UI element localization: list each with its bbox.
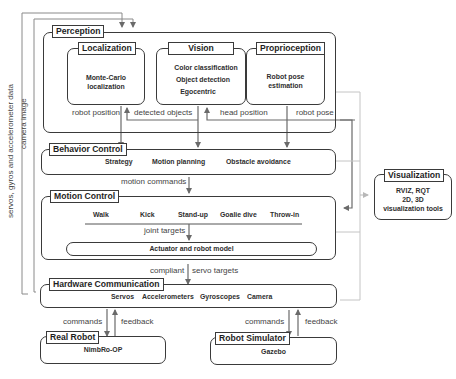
real-robot-title: Real Robot xyxy=(46,331,99,344)
visualization-line-3: visualization tools xyxy=(374,204,452,214)
edge-motion-commands: motion commands xyxy=(121,177,186,187)
edge-robot-position: robot position xyxy=(72,108,120,118)
edge-head-position: head position xyxy=(220,108,268,118)
visualization-title: Visualization xyxy=(384,169,444,182)
edge-compliant: compliant xyxy=(150,266,184,276)
edge-robot-pose: robot pose xyxy=(296,108,334,118)
behavior-control-title: Behavior Control xyxy=(49,143,127,156)
perception-title: Perception xyxy=(52,25,104,38)
hw-gyroscopes: Gyroscopes xyxy=(200,292,240,302)
hardware-communication-title: Hardware Communication xyxy=(49,278,164,291)
behavior-motion-planning: Motion planning xyxy=(152,157,205,167)
motion-goalie-dive: Goalie dive xyxy=(220,210,257,220)
hw-accelerometers: Accelerometers xyxy=(142,292,194,302)
edge-sensor-data: servos, gyros and accelerometer data xyxy=(6,84,16,218)
edge-camera-image: camera image xyxy=(19,98,29,149)
actuator-model-label: Actuator and robot model xyxy=(66,244,317,254)
edge-feedback-real: feedback xyxy=(121,317,153,327)
hw-camera: Camera xyxy=(247,292,272,302)
robot-simulator-name: Gazebo xyxy=(210,347,337,357)
vision-line-2: Object detection xyxy=(156,75,250,85)
real-robot-name: NimbRo-OP xyxy=(40,345,166,355)
vision-line-1: Color classification xyxy=(156,63,256,73)
edge-detected-objects: detected objects xyxy=(134,108,192,118)
edge-joint-targets: joint targets xyxy=(144,226,185,236)
localization-line-2: localization xyxy=(67,82,145,92)
vision-line-3: Egocentric xyxy=(156,87,240,97)
hw-servos: Servos xyxy=(111,292,134,302)
edge-commands-real: commands xyxy=(63,317,102,327)
proprioception-line-2: estimation xyxy=(246,81,325,91)
behavior-obstacle-avoidance: Obstacle avoidance xyxy=(226,157,291,167)
localization-title: Localization xyxy=(78,42,136,55)
behavior-strategy: Strategy xyxy=(105,157,133,167)
vision-title: Vision xyxy=(168,42,234,55)
robot-simulator-title: Robot Simulator xyxy=(215,332,290,345)
motion-stand-up: Stand-up xyxy=(178,210,208,220)
motion-kick: Kick xyxy=(140,210,155,220)
edge-commands-sim: commands xyxy=(245,317,284,327)
motion-control-title: Motion Control xyxy=(50,190,119,203)
edge-servo-targets: servo targets xyxy=(192,266,238,276)
edge-feedback-sim: feedback xyxy=(305,317,337,327)
proprioception-title: Proprioception xyxy=(256,42,325,55)
motion-walk: Walk xyxy=(93,210,109,220)
motion-throw-in: Throw-in xyxy=(270,210,299,220)
